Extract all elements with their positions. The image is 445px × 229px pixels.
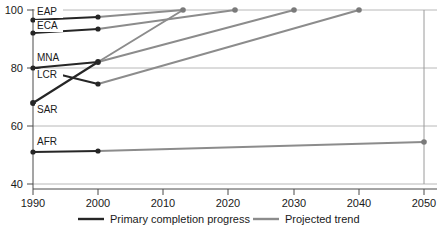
- legend-label-actual: Primary completion progress: [110, 213, 250, 225]
- y-tick-label-80: 80: [11, 62, 23, 74]
- point-afr-1990: [30, 149, 35, 154]
- projected-line-eap: [98, 10, 183, 17]
- y-tick-label-40: 40: [11, 178, 23, 190]
- point-mna-2000: [95, 59, 101, 65]
- projected-line-afr: [98, 142, 424, 151]
- point-eap-target: [180, 7, 186, 13]
- chart-legend: Primary completion progress Projected tr…: [78, 213, 360, 225]
- x-tick-label-2020: 2020: [216, 197, 240, 209]
- point-eca-1990: [30, 30, 35, 35]
- x-tick-label-2050: 2050: [412, 197, 436, 209]
- series-label-sar: SAR: [37, 104, 58, 115]
- point-mna-1990: [30, 65, 35, 70]
- x-tick-label-2040: 2040: [347, 197, 371, 209]
- point-mna-target: [291, 7, 297, 13]
- series-label-mna: MNA: [37, 52, 60, 63]
- point-lcr-target: [356, 7, 362, 13]
- gridlines: [33, 10, 437, 184]
- point-eca-target: [232, 7, 238, 13]
- line-chart: 100 80 60 40 1990 2000 2010 2020 2030 20…: [0, 0, 445, 229]
- projected-series-group: [98, 10, 424, 151]
- y-tick-marks: [27, 10, 33, 184]
- projected-line-lcr: [98, 10, 359, 84]
- point-afr-2000: [95, 148, 100, 153]
- actual-line-afr: [33, 151, 98, 152]
- point-lcr-2000: [95, 81, 100, 86]
- series-label-lcr: LCR: [37, 69, 57, 80]
- point-afr-target: [421, 139, 427, 145]
- actual-series-group: [33, 17, 98, 152]
- x-tick-marks: [33, 189, 424, 195]
- series-label-eca: ECA: [37, 20, 58, 31]
- y-tick-label-60: 60: [11, 120, 23, 132]
- x-tick-label-1990: 1990: [21, 197, 45, 209]
- series-labels-group: EAP ECA MNA LCR SAR AFR: [35, 6, 66, 148]
- legend-label-projected: Projected trend: [285, 213, 360, 225]
- point-eap-2000: [95, 14, 100, 19]
- x-tick-label-2000: 2000: [86, 197, 110, 209]
- point-eca-2000: [95, 26, 100, 31]
- projected-line-sar: [98, 10, 183, 62]
- y-tick-label-100: 100: [5, 4, 23, 16]
- series-label-eap: EAP: [37, 6, 57, 17]
- point-eap-1990: [30, 17, 35, 22]
- series-label-afr: AFR: [37, 136, 57, 147]
- x-tick-label-2010: 2010: [151, 197, 175, 209]
- x-tick-label-2030: 2030: [282, 197, 306, 209]
- chart-container: 100 80 60 40 1990 2000 2010 2020 2030 20…: [0, 0, 445, 229]
